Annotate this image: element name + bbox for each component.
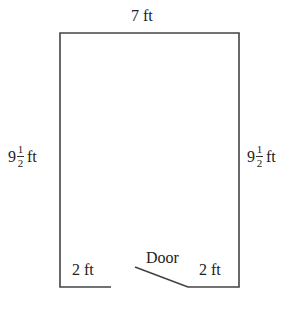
left-fraction: 1 2 [17, 144, 24, 169]
right-whole: 9 [247, 149, 255, 165]
right-dimension-label: 9 1 2 ft [247, 144, 276, 169]
top-dimension-label: 7 ft [131, 8, 153, 24]
right-fraction: 1 2 [256, 144, 263, 169]
right-unit: ft [266, 149, 276, 165]
left-dimension-label: 9 1 2 ft [8, 144, 37, 169]
left-whole: 9 [8, 149, 16, 165]
bottom-right-dimension-label: 2 ft [199, 262, 221, 278]
door-label: Door [146, 250, 179, 266]
bottom-left-dimension-label: 2 ft [72, 262, 94, 278]
left-unit: ft [27, 149, 37, 165]
door-swing-line [135, 267, 188, 287]
